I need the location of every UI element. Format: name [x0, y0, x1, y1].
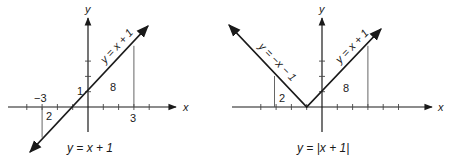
area-label-right: 8 — [110, 81, 116, 93]
line-y-eq-x-plus-1 — [30, 26, 148, 152]
right-graph: y x 2 8 y = −x − 1 y = x + 1 y = |x + 1| — [229, 3, 444, 155]
caption-left: y = x + 1 — [66, 141, 113, 155]
area-label-right: 8 — [343, 82, 349, 94]
x-axis-label: x — [182, 101, 189, 113]
area-label-left: 2 — [279, 92, 285, 104]
left-graph: y x −3 3 1 2 8 y = x + 1 y = x + 1 — [8, 3, 189, 155]
area-label-left: 2 — [46, 110, 52, 122]
tick-label-neg3: −3 — [34, 92, 47, 104]
x-axis-label: x — [437, 101, 444, 113]
caption-right: y = |x + 1| — [296, 141, 349, 155]
y-intercept-label: 1 — [77, 85, 83, 97]
tick-label-3: 3 — [130, 112, 136, 124]
graphs-figure: y x −3 3 1 2 8 y = x + 1 y = x + 1 — [0, 0, 452, 163]
y-axis-label: y — [318, 3, 326, 15]
y-axis-label: y — [84, 3, 92, 15]
